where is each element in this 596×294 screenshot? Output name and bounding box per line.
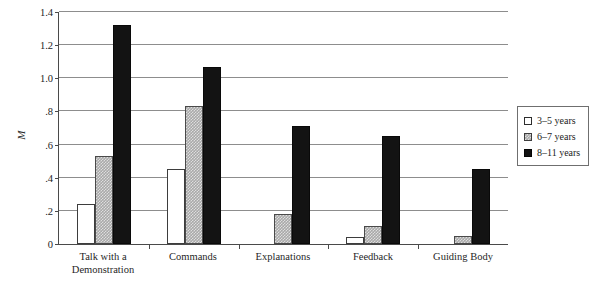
bar-group: [239, 12, 329, 244]
x-axis-category-label: Explanations: [238, 250, 328, 276]
y-axis-tick-label: 0: [48, 239, 53, 250]
bar: [95, 156, 113, 244]
bar: [77, 204, 95, 244]
legend-swatch-icon: [524, 149, 532, 157]
legend-item-label: 3–5 years: [537, 115, 576, 126]
bar: [167, 169, 185, 244]
bar: [185, 106, 203, 244]
bar: [472, 169, 490, 244]
y-axis-tick-label: .4: [45, 172, 53, 183]
y-axis-tick-mark: [55, 244, 59, 245]
bar-group: [328, 12, 418, 244]
y-axis-tick-label: 1.2: [40, 40, 53, 51]
x-axis-category-label: Talk with aDemonstration: [58, 250, 148, 276]
y-axis-tick-label: 1.4: [40, 7, 53, 18]
bar-group: [418, 12, 508, 244]
legend: 3–5 years 6–7 years 8–11 years: [517, 106, 589, 166]
y-axis-tick-label: .2: [45, 205, 53, 216]
y-axis-tick-label: .8: [45, 106, 53, 117]
legend-swatch-icon: [524, 133, 532, 141]
y-axis-title: M: [4, 118, 38, 152]
bar: [203, 67, 221, 244]
bar-stack: [256, 12, 310, 244]
bar-group: [59, 12, 149, 244]
y-axis-tick-label: 1.0: [40, 73, 53, 84]
x-axis-tick-mark: [239, 244, 240, 249]
bar-stack: [167, 12, 221, 244]
bar-stack: [346, 12, 400, 244]
x-axis-tick-mark: [149, 244, 150, 249]
x-axis-category-labels: Talk with aDemonstrationCommandsExplanat…: [58, 250, 508, 276]
bar: [113, 25, 131, 244]
bar-group: [149, 12, 239, 244]
bar-stack: [77, 12, 131, 244]
legend-item: 8–11 years: [524, 147, 580, 158]
x-axis-tick-mark: [418, 244, 419, 249]
legend-item-label: 8–11 years: [537, 147, 580, 158]
bar: [382, 136, 400, 244]
legend-item: 6–7 years: [524, 131, 580, 142]
x-axis-category-label: Commands: [148, 250, 238, 276]
x-axis-category-label: Guiding Body: [418, 250, 508, 276]
y-axis-tick-label: .6: [45, 139, 53, 150]
legend-item-label: 6–7 years: [537, 131, 576, 142]
x-axis-category-label: Feedback: [328, 250, 418, 276]
legend-swatch-icon: [524, 117, 532, 125]
x-axis-tick-mark: [328, 244, 329, 249]
bar-groups: [59, 12, 508, 244]
legend-item: 3–5 years: [524, 115, 580, 126]
bar: [454, 236, 472, 244]
bar-chart: M 1.41.21.0.8.6.4.20 Talk with aDemonstr…: [0, 0, 596, 294]
bar: [364, 226, 382, 244]
bar: [274, 214, 292, 244]
bar: [346, 237, 364, 244]
bar: [292, 126, 310, 244]
bar-stack: [436, 12, 490, 244]
plot-area: 1.41.21.0.8.6.4.20: [58, 12, 508, 245]
